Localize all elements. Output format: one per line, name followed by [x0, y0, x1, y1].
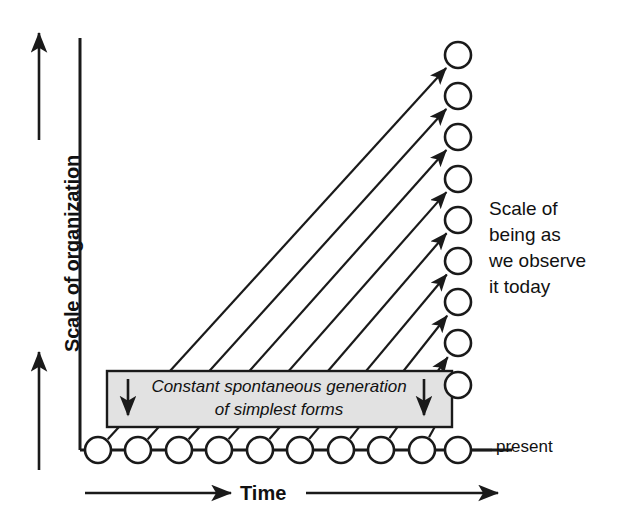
box-caption-line-2: of simplest forms	[145, 398, 413, 421]
column-node	[445, 42, 471, 68]
column-node	[445, 166, 471, 192]
side-note-line-3: we observe	[489, 248, 586, 274]
baseline-node	[368, 437, 394, 463]
baseline-node	[125, 437, 151, 463]
side-note-line-4: it today	[489, 274, 586, 300]
column-node	[445, 207, 471, 233]
baseline-node	[409, 437, 435, 463]
column-node	[445, 124, 471, 150]
baseline-node	[287, 437, 313, 463]
column-node	[445, 330, 471, 356]
baseline-node	[328, 437, 354, 463]
baseline-node	[85, 437, 111, 463]
column-node	[445, 83, 471, 109]
column-node-group	[445, 42, 471, 398]
column-node	[445, 289, 471, 315]
y-axis-label: Scale of organization	[61, 104, 84, 404]
side-note-line-1: Scale of	[489, 196, 586, 222]
side-note-line-2: being as	[489, 222, 586, 248]
box-caption: Constant spontaneous generation of simpl…	[145, 375, 413, 421]
baseline-node	[247, 437, 273, 463]
column-node	[445, 372, 471, 398]
baseline-node	[166, 437, 192, 463]
x-axis-label: Time	[240, 482, 286, 505]
diagram-root: Scale of organization Time present Scale…	[0, 0, 620, 525]
baseline-node	[206, 437, 232, 463]
side-note: Scale of being as we observe it today	[489, 196, 586, 300]
baseline-node	[445, 437, 471, 463]
box-caption-line-1: Constant spontaneous generation	[145, 375, 413, 398]
column-node	[445, 248, 471, 274]
present-label: present	[496, 437, 553, 457]
